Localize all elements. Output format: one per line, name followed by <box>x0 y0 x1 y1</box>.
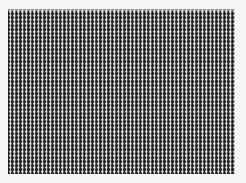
grid-mesh-pattern <box>8 9 235 174</box>
image-canvas <box>0 0 246 183</box>
mesh-top-edge <box>8 9 235 11</box>
